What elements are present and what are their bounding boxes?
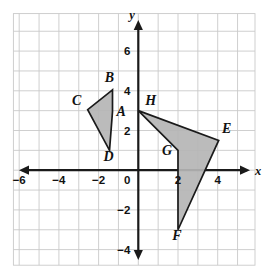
vertex-label-H: H: [144, 93, 157, 108]
y-axis-label: y: [127, 8, 135, 22]
x-tick-label-2: 2: [175, 174, 181, 186]
x-tick-label-4: 4: [214, 174, 221, 186]
y-tick-label--2: −2: [117, 204, 130, 216]
vertex-label-A: A: [115, 104, 125, 119]
x-axis-label: x: [254, 164, 261, 178]
vertex-label-B: B: [104, 70, 114, 85]
y-tick-label-2: 2: [124, 125, 130, 137]
x-axis-arrow-right: [240, 166, 250, 175]
vertex-label-G: G: [162, 143, 172, 158]
origin-label: 0: [124, 174, 130, 186]
vertex-label-C: C: [72, 93, 82, 108]
plot-canvas: −6−4−224642−2−40 ABCDEFGH x y: [0, 0, 267, 273]
x-tick-label--4: −4: [52, 174, 66, 186]
y-axis-arrow-up: [134, 20, 143, 30]
y-tick-label-4: 4: [124, 85, 131, 97]
left-dart-ABCD: [88, 90, 113, 151]
y-tick-label-6: 6: [124, 45, 130, 57]
y-axis-arrow-down: [134, 250, 143, 260]
vertex-label-F: F: [171, 228, 182, 243]
vertex-label-D: D: [102, 149, 113, 164]
vertex-label-E: E: [221, 121, 231, 136]
coordinate-plane-figure: −6−4−224642−2−40 ABCDEFGH x y: [0, 0, 267, 273]
grid-lines: [13, 14, 255, 266]
x-tick-label--2: −2: [92, 174, 105, 186]
y-tick-label--4: −4: [117, 244, 131, 256]
x-tick-label--6: −6: [13, 174, 26, 186]
